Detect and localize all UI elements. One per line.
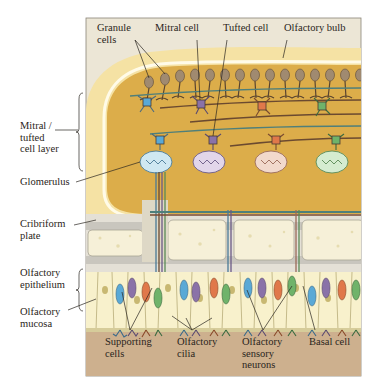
olfactory-diagram: Granule cells Mitral cell Tufted cell Ol…	[0, 0, 377, 387]
label-supporting-cells: Supporting cells	[105, 336, 152, 359]
label-mitral-cell: Mitral cell	[155, 22, 199, 34]
label-glomerulus: Glomerulus	[20, 176, 70, 188]
label-olfactory-cilia: Olfactory cilia	[177, 336, 217, 359]
label-granule-cells: Granule cells	[97, 22, 131, 45]
label-mitral-tufted-layer: Mitral / tufted cell layer	[20, 120, 59, 155]
label-tufted-cell: Tufted cell	[223, 22, 268, 34]
label-cribriform-plate: Cribriform plate	[20, 218, 66, 241]
label-olfactory-bulb: Olfactory bulb	[284, 22, 346, 34]
label-olfactory-sensory-neurons: Olfactory sensory neurons	[242, 336, 282, 371]
label-basal-cell: Basal cell	[309, 336, 350, 348]
label-olfactory-epithelium: Olfactory epithelium	[20, 267, 65, 290]
label-olfactory-mucosa: Olfactory mucosa	[20, 306, 60, 329]
